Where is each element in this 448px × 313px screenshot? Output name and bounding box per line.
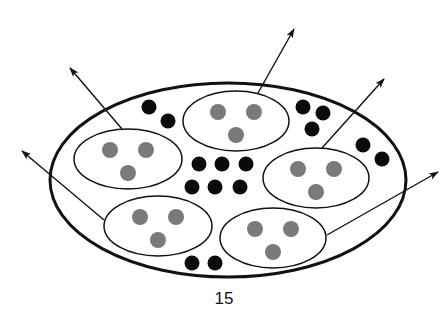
gray-particle: [247, 221, 263, 237]
vesicle-bottom-left: [104, 196, 212, 256]
black-particle: [296, 100, 311, 115]
gray-particle: [132, 209, 148, 225]
vesicle-top-center: [183, 91, 289, 151]
black-particle: [305, 122, 320, 137]
vesicle-right: [263, 148, 369, 208]
arrow-right-upper: [322, 79, 384, 148]
gray-particle: [138, 142, 154, 158]
gray-particle: [168, 209, 184, 225]
page-number: 15: [0, 289, 448, 309]
gray-particle: [120, 165, 136, 181]
arrow-top-left: [70, 68, 122, 129]
vesicle-bottom-right: [220, 208, 326, 268]
black-particle: [239, 157, 254, 172]
gray-particle: [265, 244, 281, 260]
black-particle: [233, 180, 248, 195]
black-particle: [316, 106, 331, 121]
black-particle: [185, 256, 200, 271]
black-particle: [185, 180, 200, 195]
gray-particle: [228, 127, 244, 143]
black-particle: [208, 180, 223, 195]
gray-particle: [283, 221, 299, 237]
black-particle: [142, 100, 157, 115]
gray-particle: [210, 104, 226, 120]
black-particle: [161, 114, 176, 129]
gray-particle: [102, 142, 118, 158]
black-particle: [375, 152, 390, 167]
gray-particle: [326, 161, 342, 177]
vesicle-left: [74, 129, 182, 189]
black-particle: [215, 157, 230, 172]
cell-vesicle-diagram: [0, 0, 448, 313]
gray-particle: [308, 184, 324, 200]
black-particle: [356, 138, 371, 153]
gray-particle: [150, 232, 166, 248]
gray-particle: [290, 161, 306, 177]
arrow-top: [258, 29, 294, 93]
gray-particle: [246, 104, 262, 120]
black-particle: [192, 157, 207, 172]
black-particle: [208, 256, 223, 271]
